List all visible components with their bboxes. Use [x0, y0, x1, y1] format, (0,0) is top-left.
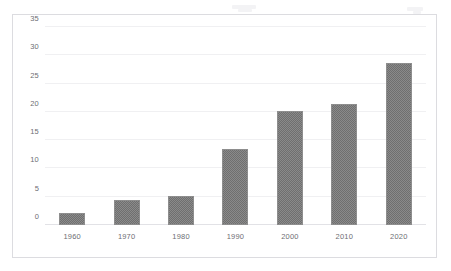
y-axis-tick-label: 35 [30, 14, 39, 23]
bar-group: 1960 [45, 27, 99, 225]
bar-group: 2010 [317, 27, 371, 225]
bar-group: 1970 [99, 27, 153, 225]
bar [277, 111, 303, 225]
x-axis-tick-label: 1980 [172, 232, 190, 241]
y-axis-tick-label: 5 [35, 183, 39, 192]
y-axis-tick-label: 15 [30, 127, 39, 136]
bar [168, 196, 194, 225]
bar-group: 2000 [263, 27, 317, 225]
bar-group: 1980 [154, 27, 208, 225]
scan-artifact [238, 9, 252, 12]
bar [222, 149, 248, 225]
x-axis-tick-label: 1970 [118, 232, 136, 241]
x-axis-tick-label: 1960 [63, 232, 81, 241]
x-axis-tick-label: 1990 [227, 232, 245, 241]
y-axis-tick-label: 10 [30, 155, 39, 164]
y-axis-tick-label: 30 [30, 42, 39, 51]
bar-group: 2020 [372, 27, 426, 225]
x-axis-tick-label: 2020 [390, 232, 408, 241]
y-axis-tick-label: 20 [30, 98, 39, 107]
bar [59, 213, 85, 225]
y-axis-tick-label: 25 [30, 70, 39, 79]
bar [331, 104, 357, 225]
bar [114, 200, 140, 225]
scan-artifact [407, 7, 423, 11]
x-axis-tick-label: 2010 [336, 232, 354, 241]
plot-area: 05101520253035 1960197019801990200020102… [45, 27, 426, 225]
bar [386, 63, 412, 225]
y-axis-tick-label: 0 [35, 212, 39, 221]
x-axis-tick-label: 2000 [281, 232, 299, 241]
scan-artifact [232, 5, 256, 9]
bar-chart-frame: 05101520253035 1960197019801990200020102… [12, 14, 437, 258]
bar-series: 1960197019801990200020102020 [45, 27, 426, 225]
bar-group: 1990 [208, 27, 262, 225]
